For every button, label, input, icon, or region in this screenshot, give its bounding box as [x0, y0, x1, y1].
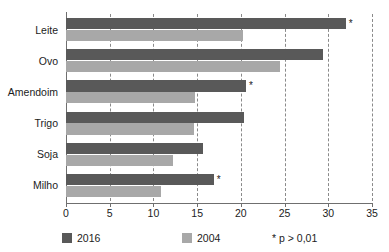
category-group-soja: Soja — [0, 139, 389, 170]
x-tick-label-15: 15 — [182, 208, 212, 219]
category-label-leite: Leite — [0, 25, 58, 36]
x-tick-label-30: 30 — [313, 208, 343, 219]
bar-soja-2004 — [66, 155, 173, 166]
x-tick-label-25: 25 — [270, 208, 300, 219]
bar-trigo-2016 — [66, 112, 244, 123]
category-label-soja: Soja — [0, 149, 58, 160]
bar-leite-2004 — [66, 30, 243, 41]
x-tick-label-5: 5 — [95, 208, 125, 219]
category-group-amendoim: Amendoim* — [0, 76, 389, 107]
bar-ovo-2004 — [66, 61, 280, 72]
chart-legend: 2016 2004 * p > 0,01 — [0, 230, 389, 248]
bar-ovo-2016 — [66, 49, 323, 60]
legend-significance-note: * p > 0,01 — [272, 233, 317, 244]
bar-milho-2004 — [66, 186, 161, 197]
category-group-milho: Milho* — [0, 170, 389, 201]
bar-amendoim-2004 — [66, 92, 195, 103]
x-tick-label-35: 35 — [357, 208, 387, 219]
category-group-leite: Leite* — [0, 14, 389, 45]
category-group-ovo: Ovo — [0, 45, 389, 76]
bar-chart: 05101520253035 Leite*OvoAmendoim*TrigoSo… — [0, 0, 389, 252]
bar-soja-2016 — [66, 143, 203, 154]
significance-star-leite-2016: * — [349, 19, 353, 29]
legend-item-2016: 2016 — [62, 233, 100, 244]
legend-swatch-2004 — [182, 233, 192, 243]
legend-item-2004: 2004 — [182, 233, 220, 244]
category-label-amendoim: Amendoim — [0, 87, 58, 98]
category-label-trigo: Trigo — [0, 118, 58, 129]
bar-amendoim-2016 — [66, 80, 246, 91]
legend-label-2004: 2004 — [197, 233, 220, 244]
category-group-trigo: Trigo — [0, 108, 389, 139]
category-label-milho: Milho — [0, 180, 58, 191]
bar-leite-2016 — [66, 18, 346, 29]
category-label-ovo: Ovo — [0, 56, 58, 67]
legend-swatch-2016 — [62, 233, 72, 243]
bar-trigo-2004 — [66, 123, 194, 134]
x-tick-label-0: 0 — [51, 208, 81, 219]
bar-milho-2016 — [66, 174, 214, 185]
x-tick-label-20: 20 — [226, 208, 256, 219]
significance-star-amendoim-2016: * — [249, 81, 253, 91]
significance-star-milho-2016: * — [217, 175, 221, 185]
x-axis-line — [66, 203, 373, 204]
x-tick-label-10: 10 — [138, 208, 168, 219]
legend-label-2016: 2016 — [77, 233, 100, 244]
